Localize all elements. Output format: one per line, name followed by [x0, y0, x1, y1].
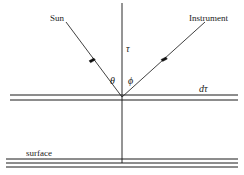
theta-label: θ: [110, 75, 115, 86]
sun-label: Sun: [50, 13, 65, 23]
radiative-transfer-diagram: Sun Instrument τ θ ϕ dτ surface: [0, 0, 244, 175]
surface-label: surface: [26, 148, 52, 158]
diagram-canvas: Sun Instrument τ θ ϕ dτ surface: [0, 0, 244, 175]
instrument-label: Instrument: [189, 13, 228, 23]
d-tau-label: dτ: [199, 83, 208, 94]
sun-ray-arrow-icon: [89, 58, 95, 63]
phi-label: ϕ: [128, 75, 133, 86]
instrument-ray-arrow-icon: [161, 57, 167, 62]
tau-label: τ: [126, 43, 130, 54]
